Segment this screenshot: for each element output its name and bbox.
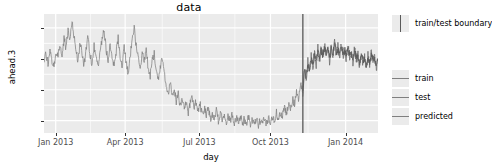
legend-key-line [392,78,409,79]
legend-item[interactable]: train [392,69,490,88]
x-tick-label: Apr 2013 [107,138,144,147]
plot-area [44,14,378,133]
x-tick-label: Jul 2013 [183,138,216,147]
legend-group-series: traintestpredicted [392,69,490,126]
chart-title: data [0,1,378,14]
legend-spacer [392,33,490,69]
y-axis-title: ahead.3 [7,37,17,97]
legend-group-boundary: train/test boundary [392,14,490,33]
legend-item-label: train [415,74,434,83]
legend-item-label: predicted [415,112,453,121]
legend-item[interactable]: test [392,88,490,107]
legend-key-line [392,97,409,98]
legend-item[interactable]: predicted [392,107,490,126]
x-axis-title: day [44,152,378,162]
x-tick-mark [125,133,126,136]
x-tick-mark [56,133,57,136]
legend: train/test boundary traintestpredicted [392,14,490,126]
legend-key-line [400,15,401,32]
horizontal-line-key-icon [392,70,409,87]
series-line-train [44,22,303,129]
legend-key-line [392,116,409,117]
legend-item-label: train/test boundary [415,19,492,28]
plot-panel [44,14,378,133]
x-tick-mark [199,133,200,136]
x-tick-label: Jan 2014 [328,138,363,147]
x-tick-mark [270,133,271,136]
vertical-line-key-icon [392,15,409,32]
x-tick-label: Oct 2013 [252,138,289,147]
legend-item[interactable]: train/test boundary [392,14,490,33]
x-tick-label: Jan 2013 [38,138,73,147]
legend-item-label: test [415,93,430,102]
horizontal-line-key-icon [392,108,409,125]
x-tick-mark [346,133,347,136]
horizontal-line-key-icon [392,89,409,106]
